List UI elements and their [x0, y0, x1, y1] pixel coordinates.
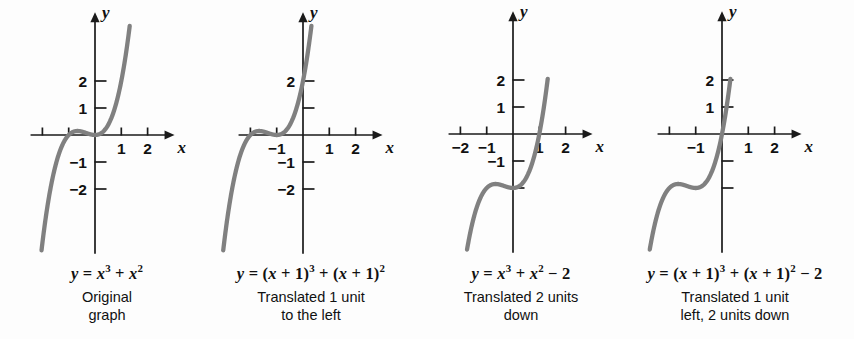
- equation-left1: y = (x + 1)3 + (x + 1)2: [196, 262, 426, 284]
- curve-left1down2: [650, 79, 731, 250]
- y-axis-label: y: [727, 2, 737, 21]
- x-axis-label: x: [804, 137, 814, 156]
- description-line-1: Translated 1 unit: [681, 289, 788, 305]
- description-line-1: Translated 2 units: [464, 289, 579, 305]
- y-axis-arrow-icon: [717, 11, 726, 21]
- description-line-1: Translated 1 unit: [257, 289, 364, 305]
- plot-left1down2: −11221xy: [0, 0, 854, 260]
- description-original: Originalgraph: [0, 288, 214, 324]
- figure-translations-of-cubic: 1221−1−2xyy = x3 + x2Originalgraph−1122−…: [0, 0, 854, 339]
- description-line-2: down: [426, 306, 616, 324]
- equation-left1down2: y = (x + 1)3 + (x + 1)2 − 2: [616, 262, 854, 284]
- y-tick-label-2: 2: [705, 72, 714, 89]
- description-left1down2: Translated 1 unitleft, 2 units down: [616, 288, 854, 324]
- description-line-1: Original: [82, 289, 132, 305]
- description-down2: Translated 2 unitsdown: [426, 288, 616, 324]
- x-tick-label-1: 1: [744, 139, 753, 156]
- equation-original: y = x3 + x2: [0, 262, 214, 284]
- description-left1: Translated 1 unitto the left: [196, 288, 426, 324]
- x-tick-label-2: 2: [770, 139, 779, 156]
- description-line-2: left, 2 units down: [616, 306, 854, 324]
- equation-down2: y = x3 + x2 − 2: [426, 262, 616, 284]
- x-tick-label--1: −1: [687, 139, 705, 156]
- description-line-2: graph: [0, 306, 214, 324]
- x-axis-arrow-icon: [792, 129, 802, 138]
- description-line-2: to the left: [196, 306, 426, 324]
- y-tick-label-1: 1: [705, 99, 714, 116]
